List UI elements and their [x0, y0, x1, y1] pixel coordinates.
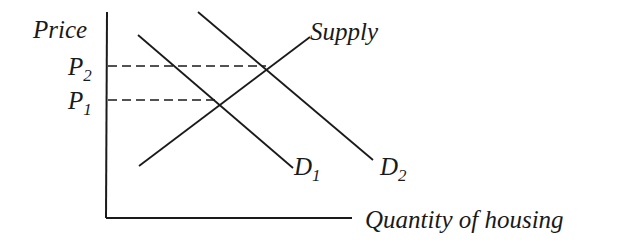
p1-label: P1: [67, 87, 92, 119]
x-axis-label: Quantity of housing: [365, 206, 564, 233]
p2-label: P2: [67, 53, 92, 85]
y-axis: [106, 12, 107, 218]
d2-label: D2: [379, 153, 407, 185]
d1-label: D1: [293, 153, 321, 185]
demand-curve-1: [138, 35, 293, 168]
y-axis-label: Price: [32, 16, 87, 43]
supply-label: Supply: [310, 18, 379, 45]
supply-demand-diagram: Price P2 P1 Supply D1 D2 Quantity of hou…: [0, 0, 631, 252]
supply-curve: [139, 37, 310, 166]
